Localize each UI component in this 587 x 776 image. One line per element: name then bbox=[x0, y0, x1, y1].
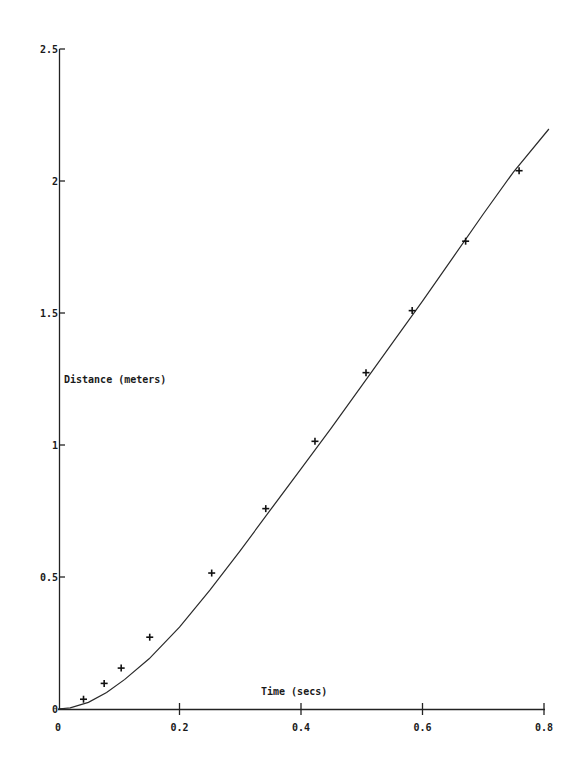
data-point-marker bbox=[208, 570, 215, 577]
x-ticks: 00.20.40.60.8 bbox=[55, 703, 553, 733]
y-tick-label: 1.5 bbox=[40, 308, 58, 319]
x-tick-label: 0.8 bbox=[535, 722, 553, 733]
y-axis-label: Distance (meters) bbox=[64, 374, 166, 385]
data-point-marker bbox=[262, 505, 269, 512]
y-tick-label: 0 bbox=[52, 704, 58, 715]
data-point-marker bbox=[80, 696, 87, 703]
data-point-marker bbox=[118, 665, 125, 672]
data-point-marker bbox=[101, 680, 108, 687]
x-tick-label: 0.2 bbox=[170, 722, 188, 733]
data-markers bbox=[80, 167, 523, 703]
y-tick-label: 0.5 bbox=[40, 572, 58, 583]
x-tick-label: 0.6 bbox=[413, 722, 431, 733]
distance-time-chart: 00.20.40.60.8 00.511.522.5 Distance (met… bbox=[0, 0, 587, 776]
x-tick-label: 0 bbox=[55, 722, 61, 733]
y-ticks: 00.511.522.5 bbox=[40, 44, 65, 715]
y-tick-label: 1 bbox=[52, 440, 58, 451]
data-point-marker bbox=[363, 369, 370, 376]
x-tick-label: 0.4 bbox=[292, 722, 310, 733]
data-point-marker bbox=[146, 634, 153, 641]
fit-curve bbox=[58, 129, 549, 709]
x-axis-label: Time (secs) bbox=[261, 686, 327, 697]
y-tick-label: 2 bbox=[52, 176, 58, 187]
data-point-marker bbox=[311, 438, 318, 445]
y-tick-label: 2.5 bbox=[40, 44, 58, 55]
